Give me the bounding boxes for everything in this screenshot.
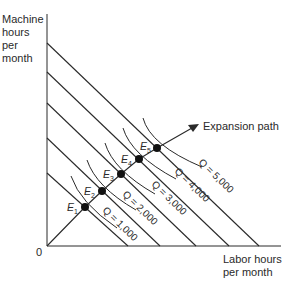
y-axis-label-line-1: Machine <box>2 13 44 25</box>
origin-label: 0 <box>36 246 42 258</box>
isoquant-label-3: Q = 3,000 <box>150 179 190 218</box>
equilibrium-point-4 <box>135 155 143 163</box>
y-axis-label-line-3: per <box>2 39 18 51</box>
equilibrium-label-2: E2 <box>84 185 95 199</box>
equilibrium-point-1 <box>81 203 89 211</box>
x-axis-label-line-1: Labor hours <box>223 253 282 265</box>
equilibrium-label-3: E3 <box>103 168 114 182</box>
y-axis-label-line-2: hours <box>2 26 30 38</box>
equilibrium-point-5 <box>153 144 161 152</box>
equilibrium-label-5: E5 <box>140 140 151 154</box>
equilibrium-point-2 <box>98 187 106 195</box>
expansion-path-diagram: Machine hours per month Labor hours per … <box>0 0 293 288</box>
isoquant-label-1: Q = 1,000 <box>101 205 141 244</box>
y-axis-label-line-4: month <box>2 52 33 64</box>
expansion-path-arrowhead-icon <box>188 124 199 132</box>
equilibrium-label-4: E4 <box>121 153 132 167</box>
equilibrium-label-1: E1 <box>67 201 78 215</box>
expansion-path-label: Expansion path <box>203 120 279 132</box>
x-axis-label-line-2: per month <box>223 266 273 278</box>
equilibrium-point-3 <box>117 170 125 178</box>
